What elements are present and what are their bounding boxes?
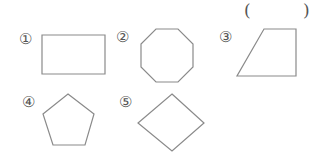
rectangle-shape: [42, 35, 105, 74]
trapezoid-shape: [237, 29, 296, 76]
pentagon-shape: [43, 94, 94, 145]
octagon-shape: [141, 29, 193, 82]
shapes-canvas: [0, 0, 316, 155]
rhombus-shape: [138, 94, 204, 151]
